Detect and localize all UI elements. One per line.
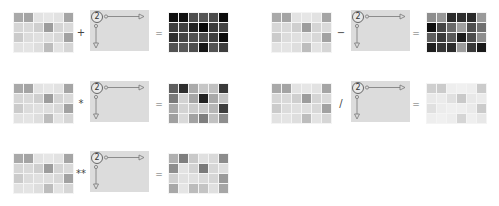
grid-cell — [447, 114, 456, 123]
grid-cell — [34, 13, 43, 22]
input-array-grid — [13, 83, 74, 124]
input-array-grid — [13, 12, 74, 53]
grid-cell — [427, 94, 436, 103]
grid-cell — [169, 174, 178, 183]
grid-cell — [64, 94, 73, 103]
grid-cell — [477, 114, 486, 123]
grid-cell — [209, 174, 218, 183]
grid-cell — [437, 23, 446, 32]
grid-cell — [64, 184, 73, 193]
grid-cell — [189, 164, 198, 173]
grid-cell — [437, 13, 446, 22]
grid-cell — [272, 114, 281, 123]
grid-cell — [437, 94, 446, 103]
grid-cell — [447, 104, 456, 113]
grid-cell — [282, 23, 291, 32]
grid-cell — [169, 164, 178, 173]
grid-cell — [457, 94, 466, 103]
grid-cell — [64, 174, 73, 183]
grid-cell — [209, 23, 218, 32]
grid-cell — [189, 104, 198, 113]
grid-cell — [272, 23, 281, 32]
grid-cell — [199, 33, 208, 42]
broadcast-arrows-icon — [90, 10, 149, 51]
grid-cell — [467, 104, 476, 113]
grid-cell — [44, 33, 53, 42]
grid-cell — [199, 114, 208, 123]
grid-cell — [477, 23, 486, 32]
grid-cell — [302, 114, 311, 123]
grid-cell — [209, 84, 218, 93]
grid-cell — [179, 154, 188, 163]
grid-cell — [457, 84, 466, 93]
grid-cell — [179, 94, 188, 103]
grid-cell — [282, 114, 291, 123]
grid-cell — [34, 104, 43, 113]
grid-cell — [34, 154, 43, 163]
grid-cell — [34, 43, 43, 52]
grid-cell — [302, 43, 311, 52]
grid-cell — [54, 174, 63, 183]
grid-cell — [199, 174, 208, 183]
grid-cell — [54, 13, 63, 22]
grid-cell — [24, 84, 33, 93]
grid-cell — [179, 13, 188, 22]
grid-cell — [457, 23, 466, 32]
equals-sign: = — [154, 99, 164, 109]
grid-cell — [54, 23, 63, 32]
grid-cell — [44, 84, 53, 93]
operator-symbol: − — [334, 28, 348, 38]
scalar-operand: 2 — [351, 10, 410, 51]
grid-cell — [169, 23, 178, 32]
grid-cell — [34, 84, 43, 93]
grid-cell — [312, 84, 321, 93]
grid-cell — [272, 84, 281, 93]
grid-cell — [272, 33, 281, 42]
result-array-grid — [426, 83, 487, 124]
grid-cell — [292, 94, 301, 103]
grid-cell — [44, 174, 53, 183]
grid-cell — [457, 104, 466, 113]
grid-cell — [219, 84, 228, 93]
grid-cell — [477, 104, 486, 113]
grid-cell — [44, 43, 53, 52]
result-array-grid — [168, 12, 229, 53]
grid-cell — [179, 184, 188, 193]
grid-cell — [24, 13, 33, 22]
grid-cell — [292, 43, 301, 52]
grid-cell — [457, 13, 466, 22]
grid-cell — [44, 154, 53, 163]
grid-cell — [282, 84, 291, 93]
grid-cell — [427, 43, 436, 52]
grid-cell — [477, 43, 486, 52]
grid-cell — [199, 84, 208, 93]
grid-cell — [219, 184, 228, 193]
grid-cell — [209, 104, 218, 113]
grid-cell — [199, 104, 208, 113]
grid-cell — [199, 154, 208, 163]
grid-cell — [24, 94, 33, 103]
grid-cell — [312, 104, 321, 113]
grid-cell — [34, 174, 43, 183]
grid-cell — [24, 43, 33, 52]
grid-cell — [44, 164, 53, 173]
grid-cell — [312, 43, 321, 52]
grid-cell — [64, 104, 73, 113]
grid-cell — [54, 84, 63, 93]
grid-cell — [457, 114, 466, 123]
grid-cell — [292, 23, 301, 32]
grid-cell — [447, 43, 456, 52]
grid-cell — [189, 33, 198, 42]
grid-cell — [312, 94, 321, 103]
grid-cell — [34, 164, 43, 173]
grid-cell — [189, 174, 198, 183]
scalar-operand: 2 — [90, 81, 149, 122]
grid-cell — [219, 43, 228, 52]
grid-cell — [44, 23, 53, 32]
grid-cell — [219, 154, 228, 163]
grid-cell — [209, 94, 218, 103]
result-array-grid — [168, 83, 229, 124]
grid-cell — [219, 114, 228, 123]
grid-cell — [34, 33, 43, 42]
grid-cell — [14, 184, 23, 193]
